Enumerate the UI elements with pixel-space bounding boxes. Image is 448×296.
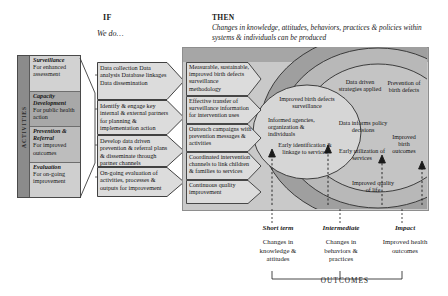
activity-subtitle: For enhanced assessment	[33, 64, 78, 78]
output-chevron-text: Continuous quality improvement	[186, 180, 255, 198]
input-chevron-prevention[interactable]: Develop data driven prevention & referra…	[97, 135, 185, 167]
input-chevron-text: Identify & engage key internal & externa…	[97, 100, 175, 133]
activity-subtitle: For improved outcomes	[33, 142, 78, 156]
oval-label-intermediate-1: Data driven strategies applied	[336, 79, 384, 93]
oval-label-intermediate-3: Early utilization of services	[336, 148, 388, 162]
activity-title: Capacity Development	[33, 93, 66, 106]
activity-item-evaluation[interactable]: Evaluation For on-going improvement	[30, 163, 80, 198]
activities-spine: ACTIVITIES	[18, 56, 30, 197]
then-sublabel: Changes in knowledge, attitudes, behavio…	[212, 23, 427, 42]
output-chevron-4[interactable]: Coordinated intervention channels to lin…	[186, 152, 262, 180]
output-chevron-5[interactable]: Continuous quality improvement	[186, 180, 262, 204]
oval-label-intermediate-2: Data informs policy decisions	[337, 120, 389, 134]
input-chevron-text: Data collection Data analysis Database l…	[97, 62, 173, 88]
then-label: THEN	[212, 13, 234, 22]
outcome-stage-label: Intermediate	[312, 224, 370, 232]
input-chevron-text: Develop data driven prevention & referra…	[97, 135, 175, 168]
oval-label-short-3: Early identification & linkage to servic…	[272, 142, 338, 156]
input-chevron-capacity[interactable]: Identify & engage key internal & externa…	[97, 100, 185, 135]
oval-label-impact-3: Improved quality of life	[349, 180, 397, 194]
activity-subtitle: For public health action	[33, 107, 78, 121]
activity-title: Surveillance	[33, 57, 64, 63]
outcome-detail-label: Changes in knowledge & attitudes	[250, 238, 306, 263]
activities-spine-label: ACTIVITIES	[21, 106, 27, 148]
output-chevron-1[interactable]: Measurable, sustainable, improved birth …	[186, 62, 262, 96]
output-chevron-text: Outreach campaigns with prevention messa…	[186, 124, 255, 150]
activity-subtitle: For on-going improvement	[33, 171, 78, 185]
input-chevron-surveillance[interactable]: Data collection Data analysis Database l…	[97, 62, 185, 100]
outcome-column-intermediate: Intermediate Changes in behaviors & prac…	[312, 224, 370, 264]
activity-title: Prevention & Referral	[33, 128, 67, 141]
output-chevron-text: Effective transfer of surveillance infor…	[186, 96, 255, 122]
outcome-detail-label: Improved health outcomes	[374, 238, 436, 255]
input-chevron-evaluation[interactable]: On-going evaluation of activities, proce…	[97, 167, 185, 197]
outcome-detail-label: Changes in behaviors & practices	[312, 238, 370, 263]
if-sublabel: We do…	[97, 29, 124, 38]
activities-list: Surveillance For enhanced assessment Cap…	[30, 56, 80, 197]
oval-label-impact-1: Prevention of birth defects	[386, 80, 422, 94]
input-chevron-text: On-going evaluation of activities, proce…	[97, 167, 175, 193]
outcome-column-short-term: Short term Changes in knowledge & attitu…	[250, 224, 306, 264]
outcome-stage-label: Impact	[374, 224, 436, 232]
oval-label-short-2: Informed agencies, organization & indivi…	[268, 117, 330, 139]
oval-label-impact-2: Improved birth outcomes	[386, 134, 422, 156]
activity-item-surveillance[interactable]: Surveillance For enhanced assessment	[30, 56, 80, 92]
activity-title: Evaluation	[33, 164, 61, 170]
outcome-stage-label: Short term	[250, 224, 306, 232]
oval-label-short-1: Improved birth defects surveillance	[271, 96, 343, 110]
activity-item-capacity-development[interactable]: Capacity Development For public health a…	[30, 92, 80, 128]
output-chevron-3[interactable]: Outreach campaigns with prevention messa…	[186, 124, 262, 152]
activity-item-prevention-referral[interactable]: Prevention & Referral For improved outco…	[30, 127, 80, 163]
activities-panel: ACTIVITIES Surveillance For enhanced ass…	[17, 55, 81, 198]
outcomes-title: OUTCOMES	[250, 277, 440, 285]
output-chevron-text: Measurable, sustainable, improved birth …	[186, 62, 254, 95]
logic-model-diagram: IF We do… THEN Changes in knowledge, att…	[0, 0, 448, 296]
output-chevron-2[interactable]: Effective transfer of surveillance infor…	[186, 96, 262, 124]
output-chevron-text: Coordinated intervention channels to lin…	[186, 152, 255, 178]
if-label: IF	[103, 13, 112, 22]
outcome-column-impact: Impact Improved health outcomes	[374, 224, 436, 255]
